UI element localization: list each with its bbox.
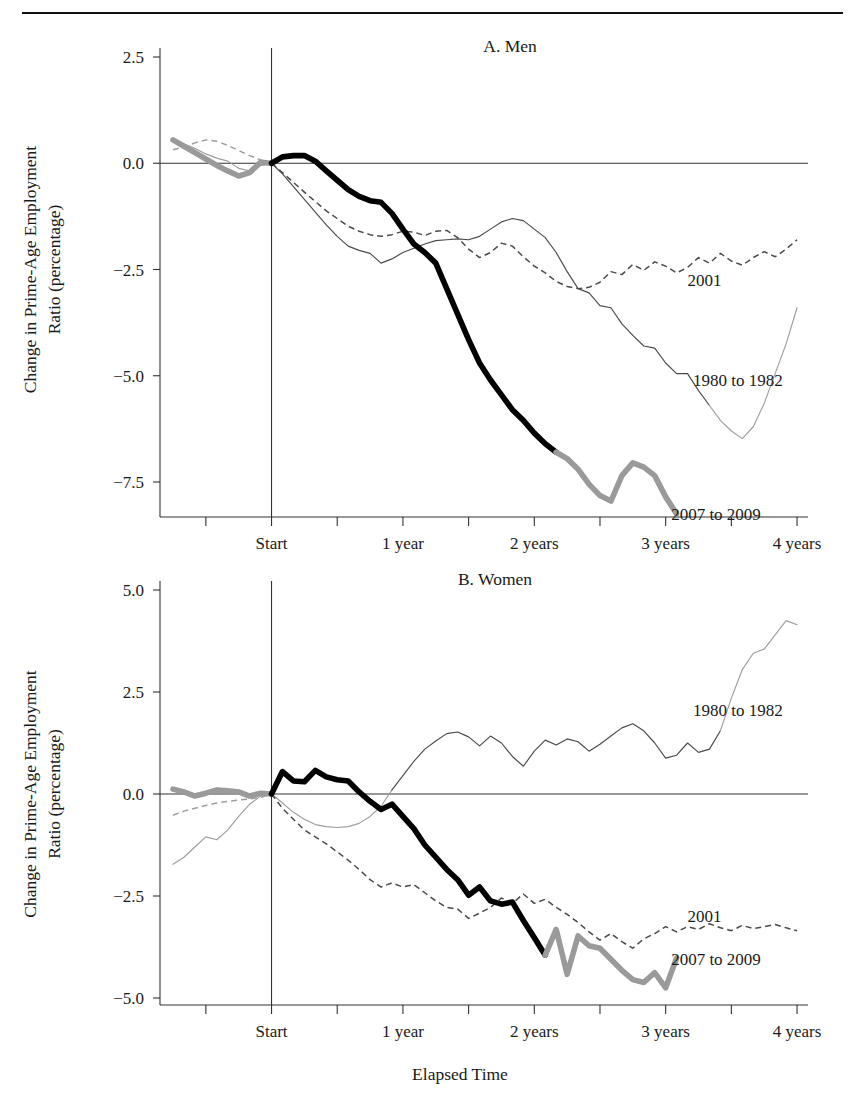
series-line-2001 [272,163,798,288]
x-axis-tick-label: 2 years [510,1022,559,1041]
y-axis-title: Change in Prime-Age EmploymentRatio (per… [20,146,64,394]
series-label-1980-to-1982: 1980 to 1982 [693,371,783,390]
series-label-2001: 2001 [688,271,722,290]
x-axis-tick-label: 3 years [641,1022,690,1041]
series-line-2007-to-2009-recession [272,770,546,955]
y-axis-tick-label: −7.5 [113,473,144,492]
y-axis-title: Change in Prime-Age EmploymentRatio (per… [20,670,64,918]
series-line-2007-to-2009-recovery [545,929,676,987]
y-axis-title-line2: Ratio (percentage) [44,204,64,334]
x-axis-tick-label: Start [255,1022,287,1041]
series-line-1980-to-1982-pre [173,790,392,864]
panel-title: B. Women [458,569,532,589]
series-label-2001: 2001 [688,907,722,926]
series-label-2007-to-2009: 2007 to 2009 [671,505,761,524]
y-axis-tick-label: −2.5 [113,261,144,280]
x-axis-tick-label: 1 year [382,1022,424,1041]
y-axis-tick-label: 0.0 [123,785,144,804]
series-line-1980-to-1982 [392,724,720,790]
panel-title: A. Men [483,36,537,56]
y-axis-tick-label: 0.0 [123,154,144,173]
y-axis-title-line2: Ratio (percentage) [44,729,64,859]
figure-root: 2.50.0−2.5−5.0−7.5Start1 year2 years3 ye… [0,0,865,1117]
x-axis-tick-label: 4 years [773,1022,822,1041]
series-line-2007-to-2009-recovery [556,452,676,514]
series-line-2007-to-2009-pre [173,789,272,796]
y-axis-tick-label: −5.0 [113,367,144,386]
series-label-2007-to-2009: 2007 to 2009 [671,950,761,969]
y-axis-tick-label: −5.0 [113,989,144,1008]
x-axis-title: Elapsed Time [412,1064,508,1084]
y-axis-title-line1: Change in Prime-Age Employment [20,670,40,918]
y-axis-tick-label: −2.5 [113,887,144,906]
y-axis-title-line1: Change in Prime-Age Employment [20,146,40,394]
series-line-1980-to-1982 [272,163,710,405]
panel-men: 2.50.0−2.5−5.0−7.5Start1 year2 years3 ye… [0,12,865,557]
y-axis-tick-label: 2.5 [123,683,144,702]
panel-women: 5.02.50.0−2.5−5.0Start1 year2 years3 yea… [0,545,865,1105]
series-label-1980-to-1982: 1980 to 1982 [693,701,783,720]
series-line-2007-to-2009-recession [272,156,557,453]
series-line-2007-to-2009-pre [173,140,272,176]
series-line-2001-pre [173,794,272,815]
y-axis-tick-label: 5.0 [123,581,144,600]
y-axis-tick-label: 2.5 [123,48,144,67]
